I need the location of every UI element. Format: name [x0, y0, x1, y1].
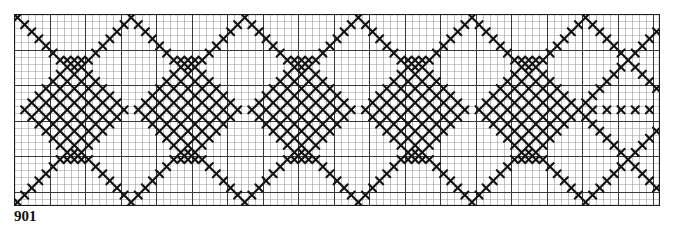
pattern-chart-page: 901: [0, 0, 679, 233]
pattern-number-label: 901: [14, 208, 37, 225]
cross-stitch-canvas: [14, 14, 660, 206]
cross-stitch-grid: [14, 14, 660, 206]
